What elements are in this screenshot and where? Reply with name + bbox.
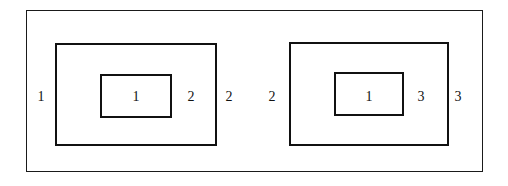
right-group-label-outer-left: 2 — [269, 90, 276, 104]
left-group-label-outer-right: 2 — [226, 90, 233, 104]
right-group-label-outer-right: 3 — [455, 90, 462, 104]
diagram-canvas: 1 1 2 2 2 1 3 3 — [0, 0, 508, 186]
left-group-label-inner-center: 1 — [133, 90, 140, 104]
left-group-label-outer-left: 1 — [38, 90, 45, 104]
left-group-label-middle-right: 2 — [188, 90, 195, 104]
right-group-label-inner-center: 1 — [366, 90, 373, 104]
right-group-label-middle-right: 3 — [418, 90, 425, 104]
